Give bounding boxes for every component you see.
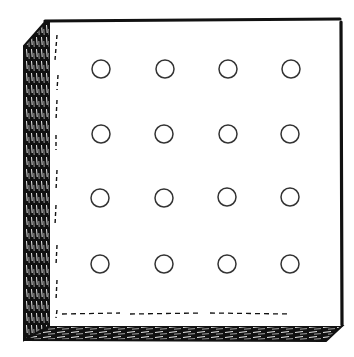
right-edge [341,22,342,325]
hole-r2-c4 [281,125,299,143]
hole-r3-c3 [218,188,236,206]
left-side-face [24,22,50,340]
hole-r2-c3 [219,125,237,143]
hole-r2-c1 [92,125,110,143]
hole-r2-c2 [155,125,173,143]
top-edge [45,19,340,21]
board-drawing [0,0,354,357]
hole-r3-c2 [155,189,173,207]
bottom-side-face [24,326,342,341]
hole-r1-c2 [156,60,174,78]
hole-r4-c3 [218,255,236,273]
hole-r3-c4 [281,188,299,206]
hole-r1-c4 [282,60,300,78]
hole-r4-c4 [281,255,299,273]
hole-r1-c1 [92,60,110,78]
hole-r4-c1 [91,255,109,273]
hole-r3-c1 [91,189,109,207]
board-illustration [0,0,354,357]
hole-r4-c2 [155,255,173,273]
hole-r1-c3 [219,60,237,78]
